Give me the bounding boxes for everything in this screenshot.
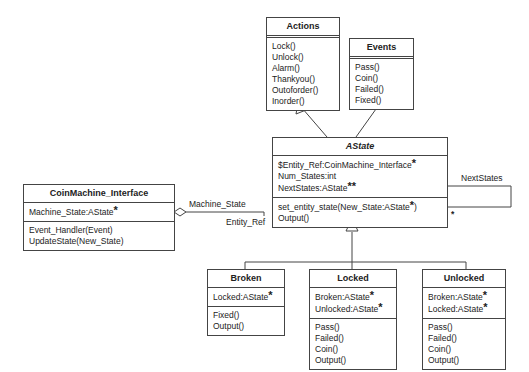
class-unlocked[interactable]: Unlocked Broken:AState* Locked:AState* P… bbox=[422, 269, 506, 370]
method: Pass() bbox=[315, 322, 391, 333]
method: Alarm() bbox=[272, 63, 334, 74]
method: Fixed() bbox=[355, 95, 408, 106]
attribute: $Entity_Ref:CoinMachine_Interface* bbox=[278, 159, 442, 171]
method: Coin() bbox=[355, 73, 408, 84]
method: Unlock() bbox=[272, 52, 334, 63]
method-list: Lock() Unlock() Alarm() Thankyou() Outof… bbox=[267, 38, 339, 110]
attribute: Locked:AState* bbox=[213, 291, 279, 303]
multiplicity-mark: * bbox=[114, 204, 118, 216]
multiplicity-mark: * bbox=[412, 157, 416, 169]
multiplicity-mark: * bbox=[410, 199, 414, 211]
method: Output() bbox=[213, 321, 279, 332]
multiplicity-mark: * bbox=[370, 289, 374, 301]
method: Failed() bbox=[355, 84, 408, 95]
method: Failed() bbox=[428, 333, 500, 344]
method: Output() bbox=[315, 355, 391, 366]
method: Lock() bbox=[272, 41, 334, 52]
multiplicity-mark: * bbox=[378, 301, 382, 313]
class-actions[interactable]: Actions Lock() Unlock() Alarm() Thankyou… bbox=[266, 17, 340, 111]
multiplicity-next-states: * bbox=[451, 209, 454, 219]
attribute: Machine_State:AState* bbox=[29, 206, 169, 218]
attribute: Locked:AState* bbox=[428, 303, 500, 315]
class-broken[interactable]: Broken Locked:AState* Fixed() Output() bbox=[207, 269, 285, 336]
method: set_entity_state(New_State:AState*) bbox=[278, 201, 442, 213]
class-name: Unlocked bbox=[423, 270, 505, 288]
attribute-list: Locked:AState* bbox=[208, 288, 284, 306]
class-coinmachine-interface[interactable]: CoinMachine_Interface Machine_State:ASta… bbox=[23, 184, 175, 251]
class-name: CoinMachine_Interface bbox=[24, 185, 174, 203]
method: Output() bbox=[428, 355, 500, 366]
multiplicity-mark: * bbox=[483, 301, 487, 313]
method: Coin() bbox=[315, 344, 391, 355]
class-name: Events bbox=[350, 39, 413, 59]
class-events[interactable]: Events Pass() Coin() Failed() Fixed() bbox=[349, 38, 414, 110]
association-label-next-states: NextStates bbox=[461, 173, 503, 183]
method-list: Fixed() Output() bbox=[208, 306, 284, 335]
method-list: Pass() Coin() Failed() Fixed() bbox=[350, 59, 413, 109]
method: Pass() bbox=[355, 62, 408, 73]
method: Outoforder() bbox=[272, 85, 334, 96]
method-list: Event_Handler(Event) UpdateState(New_Sta… bbox=[24, 221, 174, 250]
method: Inorder() bbox=[272, 96, 334, 107]
class-locked[interactable]: Locked Broken:AState* Unlocked:AState* P… bbox=[309, 269, 397, 370]
class-name: Broken bbox=[208, 270, 284, 288]
method-list: Pass() Failed() Coin() Output() bbox=[310, 318, 396, 369]
attribute-list: $Entity_Ref:CoinMachine_Interface* Num_S… bbox=[273, 156, 447, 197]
class-name: Actions bbox=[267, 18, 339, 38]
method: UpdateState(New_State) bbox=[29, 236, 169, 247]
association-label-machine-state: Machine_State bbox=[189, 199, 246, 209]
attribute: Broken:AState* bbox=[428, 291, 500, 303]
attribute-list: Machine_State:AState* bbox=[24, 203, 174, 221]
method-list: Pass() Failed() Coin() Output() bbox=[423, 318, 505, 369]
attribute-list: Broken:AState* Locked:AState* bbox=[423, 288, 505, 318]
method: Thankyou() bbox=[272, 74, 334, 85]
method: Failed() bbox=[315, 333, 391, 344]
method: Pass() bbox=[428, 322, 500, 333]
class-name: AState bbox=[273, 138, 447, 156]
association-label-entity-ref: Entity_Ref bbox=[226, 217, 265, 227]
attribute: Unlocked:AState* bbox=[315, 303, 391, 315]
class-name: Locked bbox=[310, 270, 396, 288]
attribute-list: Broken:AState* Unlocked:AState* bbox=[310, 288, 396, 318]
method: Output() bbox=[278, 213, 442, 224]
multiplicity-mark: * bbox=[483, 289, 487, 301]
aggregation-diamond bbox=[174, 208, 186, 216]
method: Event_Handler(Event) bbox=[29, 225, 169, 236]
method: Coin() bbox=[428, 344, 500, 355]
class-astate[interactable]: AState $Entity_Ref:CoinMachine_Interface… bbox=[272, 137, 448, 228]
multiplicity-mark: * bbox=[268, 289, 272, 301]
attribute: NextStates:AState** bbox=[278, 182, 442, 194]
attribute: Num_States:int bbox=[278, 171, 442, 182]
method-list: set_entity_state(New_State:AState*) Outp… bbox=[273, 197, 447, 227]
method: Fixed() bbox=[213, 310, 279, 321]
multiplicity-mark: ** bbox=[347, 180, 356, 192]
